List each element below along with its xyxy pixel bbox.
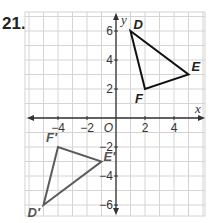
y-tick-label: −4 [99, 169, 113, 183]
y-tick-label: 6 [106, 24, 113, 38]
y-tick-label: −6 [99, 198, 113, 212]
vertex-label: D′ [28, 205, 41, 220]
y-tick-label: 4 [106, 53, 113, 67]
vertex-label: E′ [104, 149, 117, 164]
y-tick-label: 2 [106, 82, 113, 96]
vertex-label: F [135, 91, 144, 106]
y-axis-label: y [119, 12, 127, 27]
x-tick-label: −2 [80, 121, 94, 135]
x-axis-label: x [194, 101, 201, 116]
grid-lines [25, 12, 205, 216]
origin-label: O [104, 121, 113, 135]
y-axis-arrow-down-icon [113, 208, 119, 215]
x-tick-label: 4 [171, 121, 178, 135]
vertex-label: F′ [46, 130, 58, 145]
vertex-label: D [134, 17, 144, 32]
axes: xy [27, 12, 205, 215]
x-axis-arrow-left-icon [27, 115, 34, 121]
triangle-def: DEF [131, 17, 201, 106]
x-tick-label: 2 [142, 121, 149, 135]
vertex-label: E [192, 59, 201, 74]
coordinate-plane: xy −4−224O642−2−4−6 DEF D′E′F′ [0, 0, 210, 223]
grid-border [25, 12, 205, 216]
